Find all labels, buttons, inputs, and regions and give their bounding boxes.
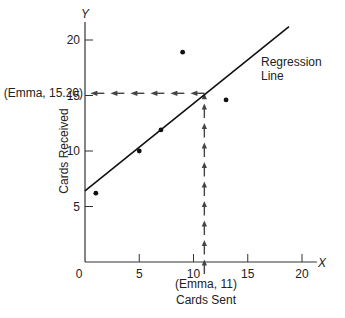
arrow-up-icon: [202, 162, 207, 168]
regression-label-line2: Line: [261, 69, 284, 83]
arrow-up-icon: [202, 104, 207, 110]
data-point: [93, 191, 98, 196]
emma-y-annotation: (Emma, 15.20): [4, 86, 83, 100]
regression-line-path: [85, 27, 289, 191]
arrow-left-icon: [190, 91, 197, 96]
y-tick-label: 20: [67, 33, 81, 47]
regression-label-line1: Regression: [261, 55, 322, 69]
arrow-up-icon: [202, 221, 207, 227]
y-axis-letter: Y: [81, 7, 90, 21]
arrow-up-icon: [202, 143, 207, 149]
regression-line: [85, 27, 289, 191]
arrow-up-icon: [202, 182, 207, 188]
x-axis-letter: X: [317, 256, 327, 270]
arrow-left-icon: [110, 91, 117, 96]
regression-chart: 051015205101520 Y X Cards Received Cards…: [0, 0, 345, 318]
arrow-up-icon: [202, 240, 207, 246]
data-points: [93, 50, 228, 196]
emma-x-annotation: (Emma, 11): [175, 277, 237, 291]
data-point: [180, 50, 185, 55]
arrow-left-icon: [170, 91, 177, 96]
emma-guide-lines: [90, 91, 207, 274]
x-tick-label: 20: [295, 267, 309, 281]
x-axis-label: Cards Sent: [176, 293, 237, 307]
data-point: [224, 98, 229, 103]
arrow-left-icon: [150, 91, 157, 96]
arrow-left-icon: [130, 91, 137, 96]
y-axis-label: Cards Received: [57, 108, 71, 193]
data-point: [137, 149, 142, 154]
arrow-up-icon: [202, 123, 207, 129]
arrow-up-icon: [202, 201, 207, 207]
y-tick-label: 5: [73, 200, 80, 214]
x-tick-label: 15: [241, 267, 255, 281]
data-point: [159, 128, 164, 133]
x-tick-label: 0: [76, 267, 83, 281]
x-tick-label: 5: [136, 267, 143, 281]
